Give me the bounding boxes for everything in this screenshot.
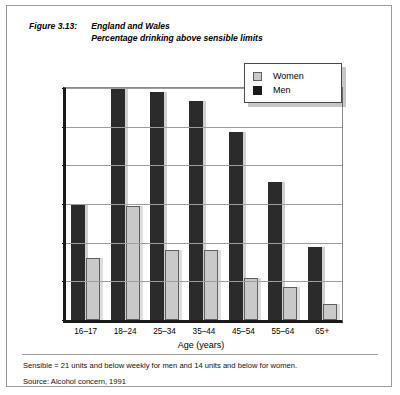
chart-axes: 16–1718–2425–3435–4445–5455–6465+ 0%5%10… <box>63 87 343 323</box>
bar-men-35-44[interactable] <box>189 101 203 320</box>
bar-women-35-44[interactable] <box>204 250 218 320</box>
y-axis-tick-mark <box>62 165 66 166</box>
y-axis-tick-mark <box>62 88 66 89</box>
figure-frame: Figure 3.13: England and Wales Percentag… <box>6 5 392 387</box>
footnote-sensible: Sensible = 21 units and below weekly for… <box>23 361 297 370</box>
bar-men-16-17[interactable] <box>71 204 85 320</box>
gridline <box>66 127 342 128</box>
bar-women-45-54[interactable] <box>244 278 258 320</box>
footer-divider <box>22 354 378 355</box>
legend-label-women: Women <box>273 71 304 81</box>
legend-item-men: Men <box>253 83 335 97</box>
x-axis-tick-label: 45–54 <box>232 327 255 336</box>
y-axis-tick-mark <box>62 204 66 205</box>
bar-women-25-34[interactable] <box>165 250 179 320</box>
bar-women-65+[interactable] <box>323 304 337 320</box>
y-axis-tick-mark <box>62 127 66 128</box>
legend-label-men: Men <box>273 85 291 95</box>
legend-swatch-men-icon <box>253 86 262 95</box>
legend-item-women: Women <box>253 69 335 83</box>
x-axis-tick-label: 35–44 <box>193 327 216 336</box>
x-axis-title: Age (years) <box>63 340 339 350</box>
legend-swatch-women-icon <box>253 72 262 81</box>
gridline <box>66 281 342 282</box>
y-axis-tick-mark <box>62 281 66 282</box>
x-axis-tick-label: 18–24 <box>114 327 137 336</box>
bar-men-45-54[interactable] <box>229 132 243 320</box>
gridline <box>66 204 342 205</box>
x-axis-tick-label: 55–64 <box>271 327 294 336</box>
bar-women-18-24[interactable] <box>126 206 140 320</box>
footnote-source: Source: Alcohol concern, 1991 <box>23 377 126 386</box>
y-axis-tick-mark <box>62 243 66 244</box>
gridline <box>66 165 342 166</box>
x-axis-tick-label: 65+ <box>315 327 329 336</box>
chart-legend: Women Men <box>244 63 342 103</box>
bar-men-55-64[interactable] <box>268 182 282 320</box>
y-axis-tick-mark <box>62 320 66 321</box>
bar-women-55-64[interactable] <box>283 287 297 320</box>
bar-men-65+[interactable] <box>308 247 322 320</box>
x-axis-tick-label: 25–34 <box>153 327 176 336</box>
bar-women-16-17[interactable] <box>86 258 100 320</box>
x-axis-tick-label: 16–17 <box>74 327 97 336</box>
gridline <box>66 243 342 244</box>
